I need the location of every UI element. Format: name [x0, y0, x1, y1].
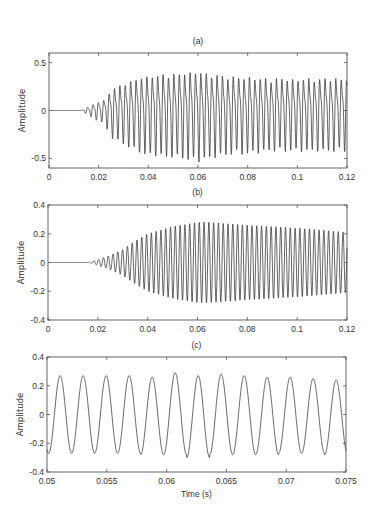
x-tick-label: 0.04 [139, 324, 156, 334]
x-tick-label: 0.05 [39, 476, 56, 486]
x-tick-label: 0.08 [239, 172, 256, 182]
waveform-trace [47, 373, 346, 458]
y-tick-label: 0 [40, 258, 45, 268]
x-tick-label: 0.075 [335, 476, 357, 486]
y-tick-label: 0.4 [33, 200, 45, 210]
x-tick-label: 0.06 [158, 476, 175, 486]
y-tick-label: 0 [41, 106, 46, 116]
y-tick-label: 0 [39, 410, 44, 420]
x-tick-label: 0.12 [339, 324, 356, 334]
y-tick-label: -0.4 [30, 315, 45, 325]
panel-title: (a) [193, 36, 204, 46]
waveform-trace [48, 222, 347, 302]
x-tick-label: 0.06 [189, 324, 206, 334]
y-tick-label: 0.5 [34, 58, 46, 68]
y-tick-label: -0.2 [29, 438, 44, 448]
y-axis-label: Amplitude [16, 241, 26, 285]
x-tick-label: 0.02 [90, 172, 107, 182]
y-tick-label: -0.4 [29, 467, 44, 477]
panel-b: (b)Amplitude00.020.040.060.080.10.12-0.4… [16, 187, 356, 334]
x-tick-label: 0.12 [339, 172, 356, 182]
x-axis-label: Time (s) [181, 489, 212, 499]
x-tick-label: 0 [47, 172, 52, 182]
x-tick-label: 0.08 [239, 324, 256, 334]
x-tick-label: 0.06 [190, 172, 207, 182]
x-tick-label: 0.02 [90, 324, 107, 334]
figure: (a)Amplitude00.020.040.060.080.10.12-0.5… [0, 0, 371, 524]
axes-frame [47, 357, 346, 472]
y-tick-label: -0.2 [30, 286, 45, 296]
y-tick-label: 0.4 [32, 352, 44, 362]
y-tick-label: 0.2 [32, 381, 44, 391]
x-tick-label: 0.065 [216, 476, 238, 486]
x-tick-label: 0.1 [291, 324, 303, 334]
y-axis-label: Amplitude [17, 89, 27, 133]
panel-title: (b) [192, 187, 203, 197]
waveform-trace [49, 73, 347, 162]
y-tick-label: -0.5 [31, 153, 46, 163]
x-tick-label: 0.04 [140, 172, 157, 182]
x-tick-label: 0.055 [96, 476, 118, 486]
x-tick-label: 0.07 [278, 476, 295, 486]
panel-a: (a)Amplitude00.020.040.060.080.10.12-0.5… [17, 36, 356, 182]
x-tick-label: 0.1 [291, 172, 303, 182]
panel-c: (c)Amplitude0.050.0550.060.0650.070.075-… [15, 340, 357, 499]
x-tick-label: 0 [46, 324, 51, 334]
y-tick-label: 0.2 [33, 229, 45, 239]
panel-title: (c) [192, 340, 202, 350]
y-axis-label: Amplitude [15, 393, 25, 437]
